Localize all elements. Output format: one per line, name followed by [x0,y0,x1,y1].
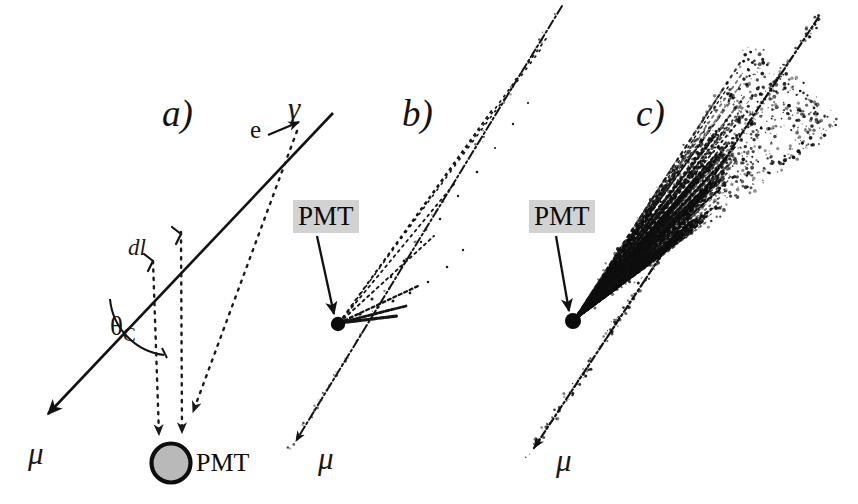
photon-speckle [707,168,708,169]
photon-speckle [796,112,799,115]
photon-speckle [818,143,820,145]
photon-speckle [776,92,779,95]
photon-speckle [686,179,688,181]
photon-speckle [796,107,798,109]
photon-speckle [773,74,774,75]
photon-speckle [719,216,721,218]
photon-speckle [634,269,637,272]
photon-speckle [617,251,619,253]
photon-speckle [724,132,725,133]
track-speckle [541,39,544,42]
track-speckle [732,149,734,151]
photon-speckle [597,278,599,280]
photon-speckle [633,264,634,265]
photon-speckle [648,235,651,238]
photon-speckle [732,137,735,140]
photon-speckle [714,146,716,148]
photon-speckle [742,158,746,162]
track-speckle [786,61,789,64]
photon-speckle [759,68,760,69]
track-speckle [532,52,533,53]
photon-speckle [659,200,662,203]
photon-speckle [616,247,620,251]
photon-speckle [695,169,696,170]
track-speckle [651,264,654,267]
track-speckle [609,333,610,334]
track-speckle [697,203,699,205]
photon-speckle [826,116,828,118]
track-speckle [599,345,601,347]
track-speckle [533,443,535,445]
photon-speckle [647,214,650,217]
photon-speckle [752,176,755,179]
photon-speckle [682,213,683,214]
track-speckle [436,210,437,211]
photon-speckle [629,250,630,251]
track-speckle [642,277,643,278]
photon-speckle [717,134,720,137]
photon-speckle [792,114,794,116]
photon-speckle [797,149,801,153]
photon-speckle [702,116,705,119]
track-speckle [572,383,574,385]
track-speckle [292,443,295,446]
photon-speckle [766,63,769,66]
track-speckle [728,152,731,155]
photon-speckle [757,161,759,163]
photon-speckle [655,250,658,253]
photon-speckle [687,176,689,178]
photon-speckle [788,83,789,84]
track-speckle [810,27,813,30]
photon-speckle [682,239,683,240]
track-speckle [498,108,499,109]
photon-speckle [681,200,683,202]
track-speckle [604,341,606,343]
photon-speckle [633,231,637,235]
photon-speckle [640,267,642,269]
track-speckle [743,127,746,130]
track-speckle [773,81,775,83]
photon-speckle [661,188,665,192]
track-speckle [571,395,573,397]
track-speckle [782,74,784,76]
photon-speckle [738,121,742,125]
photon-speckle [709,164,711,166]
photon-speckle [739,146,741,148]
photon-speckle [657,220,659,222]
track-speckle [685,210,687,212]
photon-speckle [668,202,669,203]
photon-speckle [750,161,752,163]
photon-speckle [741,115,742,116]
photon-speckle [744,130,746,132]
photon-speckle [792,156,796,160]
track-speckle [672,232,673,233]
track-speckle [383,290,385,292]
photon-speckle [774,119,776,121]
track-speckle [482,141,483,142]
photon-speckle [677,219,680,222]
photon-speckle [754,63,757,66]
photon-speckle [798,153,801,156]
muon-label-a: μ [28,438,44,469]
photon-speckle [723,178,725,180]
track-speckle [744,122,747,125]
photon-speckle [671,239,674,242]
track-speckle [683,219,685,221]
photon-speckle [769,150,770,151]
photon-speckle [689,224,692,227]
photon-speckle [784,125,785,126]
track-speckle [546,422,547,423]
photon-speckle [699,174,701,176]
photon-speckle [669,235,671,237]
photon-speckle [721,205,723,207]
photon-speckle [705,125,707,127]
track-speckle [700,187,703,190]
panel-label-b: b) [402,95,433,132]
track-speckle [313,409,316,412]
photon-speckle [711,166,715,170]
track-speckle [579,378,580,379]
photon-speckle [751,163,754,166]
track-speckle [542,32,544,34]
photon-speckle [688,206,689,207]
photon-speckle [792,149,793,150]
